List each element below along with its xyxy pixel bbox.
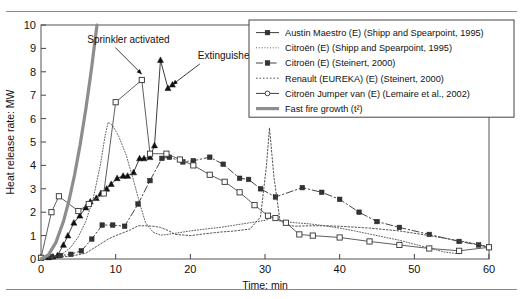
data-marker-open-square bbox=[397, 242, 402, 247]
series-0 bbox=[38, 57, 175, 260]
y-tick-label: 7 bbox=[30, 89, 36, 101]
series-line bbox=[41, 157, 489, 258]
annotation-label: Extinguished bbox=[198, 50, 255, 61]
figure-container: 0102030405060012345678910Time: minHeat r… bbox=[0, 0, 523, 299]
y-tick-label: 3 bbox=[30, 183, 36, 195]
data-marker-open-square bbox=[177, 157, 182, 162]
y-tick-label: 6 bbox=[30, 113, 36, 125]
data-marker-square bbox=[207, 155, 212, 160]
y-tick-label: 8 bbox=[30, 66, 36, 78]
data-marker-open-square bbox=[86, 201, 91, 206]
data-marker-triangle bbox=[151, 142, 157, 148]
data-marker-open-square bbox=[367, 239, 372, 244]
data-marker-open-square bbox=[164, 151, 169, 156]
data-marker-open-square bbox=[427, 246, 432, 251]
series-5 bbox=[41, 25, 97, 259]
chart-canvas: 0102030405060012345678910Time: minHeat r… bbox=[0, 0, 523, 299]
y-axis-title: Heat release rate: MW bbox=[4, 89, 16, 194]
data-marker-square bbox=[300, 185, 305, 190]
data-marker-square bbox=[357, 210, 362, 215]
data-marker-open-square bbox=[486, 245, 491, 250]
annotation-sprinkler-activated: Sprinkler activated bbox=[87, 34, 169, 75]
data-marker-open-square bbox=[457, 248, 462, 253]
annotation-arrowhead bbox=[172, 80, 177, 85]
data-marker-square bbox=[160, 156, 165, 161]
data-marker-open-square bbox=[252, 203, 257, 208]
x-tick-label: 40 bbox=[334, 263, 346, 275]
legend-item-4[interactable]: Citroën Jumper van (E) (Lemaire et al., … bbox=[256, 89, 470, 99]
x-tick-label: 50 bbox=[408, 263, 420, 275]
legend-item-label: Citroën (E) (Steinert, 2000) bbox=[285, 58, 395, 68]
data-marker-square bbox=[148, 178, 153, 183]
series-line bbox=[41, 128, 489, 258]
x-tick-label: 20 bbox=[184, 263, 196, 275]
data-marker-square bbox=[337, 197, 342, 202]
data-marker-square bbox=[375, 219, 380, 224]
annotation-leader-line bbox=[115, 48, 142, 75]
data-marker-square bbox=[110, 223, 115, 228]
x-tick-label: 30 bbox=[259, 263, 271, 275]
legend-item-1[interactable]: Citroën (E) (Shipp and Spearpoint, 1995) bbox=[256, 43, 452, 53]
data-marker-open-square bbox=[273, 215, 278, 220]
data-marker-open-square bbox=[237, 190, 242, 195]
data-marker-open-square bbox=[207, 172, 212, 177]
data-marker-square bbox=[191, 158, 196, 163]
data-marker-triangle bbox=[65, 232, 71, 238]
y-tick-label: 0 bbox=[30, 253, 36, 265]
data-marker-open-square bbox=[222, 179, 227, 184]
data-marker-open-square bbox=[76, 208, 81, 213]
legend-item-label: Fast fire growth (t²) bbox=[285, 104, 363, 114]
data-marker-open-square bbox=[139, 77, 144, 82]
y-tick-label: 5 bbox=[30, 136, 36, 148]
data-marker-square bbox=[319, 190, 324, 195]
annotations-group: Sprinkler activatedExtinguished bbox=[87, 34, 255, 85]
data-marker-open-square bbox=[265, 213, 270, 218]
x-tick-label: 0 bbox=[38, 263, 44, 275]
y-tick-label: 10 bbox=[24, 19, 36, 31]
data-marker-square bbox=[265, 61, 270, 66]
x-tick-label: 10 bbox=[110, 263, 122, 275]
data-marker-open-square bbox=[101, 191, 106, 196]
data-marker-open-square bbox=[147, 151, 152, 156]
legend-item-label: Citroën (E) (Shipp and Spearpoint, 1995) bbox=[285, 43, 452, 53]
legend-item-label: Citroën Jumper van (E) (Lemaire et al., … bbox=[285, 89, 470, 99]
data-marker-square bbox=[221, 162, 226, 167]
data-marker-square bbox=[136, 202, 141, 207]
data-marker-square bbox=[265, 30, 270, 35]
x-tick-label: 60 bbox=[483, 263, 495, 275]
legend-item-label: Austin Maestro (E) (Shipp and Spearpoint… bbox=[285, 28, 484, 38]
legend-group: Austin Maestro (E) (Shipp and Spearpoint… bbox=[249, 20, 514, 117]
series-3 bbox=[41, 128, 489, 258]
data-marker-square bbox=[246, 177, 251, 182]
legend-marker-open-circle bbox=[265, 91, 270, 96]
data-marker-square bbox=[89, 237, 94, 242]
annotation-leader-line bbox=[172, 64, 199, 85]
legend-item-3[interactable]: Renault (EUREKA) (E) (Steinert, 2000) bbox=[256, 74, 444, 84]
data-marker-triangle bbox=[60, 242, 66, 248]
data-marker-open-square bbox=[191, 163, 196, 168]
data-marker-square bbox=[258, 187, 263, 192]
data-marker-open-square bbox=[283, 220, 288, 225]
data-marker-square bbox=[397, 225, 402, 230]
data-marker-triangle bbox=[157, 57, 163, 63]
data-marker-square bbox=[79, 249, 84, 254]
data-marker-open-square bbox=[113, 100, 118, 105]
y-tick-label: 9 bbox=[30, 42, 36, 54]
data-marker-open-square bbox=[310, 233, 315, 238]
legend-item-label: Renault (EUREKA) (E) (Steinert, 2000) bbox=[285, 74, 444, 84]
data-marker-open-square bbox=[56, 194, 61, 199]
x-axis-title: Time: min bbox=[242, 279, 288, 291]
annotation-extinguished: Extinguished bbox=[172, 50, 255, 85]
annotation-label: Sprinkler activated bbox=[87, 34, 169, 45]
data-marker-square bbox=[237, 176, 242, 181]
data-marker-open-square bbox=[49, 210, 54, 215]
series-line bbox=[41, 25, 97, 259]
y-tick-label: 1 bbox=[30, 230, 36, 242]
data-marker-square bbox=[122, 224, 127, 229]
data-marker-open-square bbox=[297, 232, 302, 237]
data-marker-open-square bbox=[337, 235, 342, 240]
data-marker-square bbox=[100, 223, 105, 228]
legend-item-0[interactable]: Austin Maestro (E) (Shipp and Spearpoint… bbox=[256, 28, 484, 38]
y-tick-label: 4 bbox=[30, 159, 36, 171]
y-tick-label: 2 bbox=[30, 206, 36, 218]
